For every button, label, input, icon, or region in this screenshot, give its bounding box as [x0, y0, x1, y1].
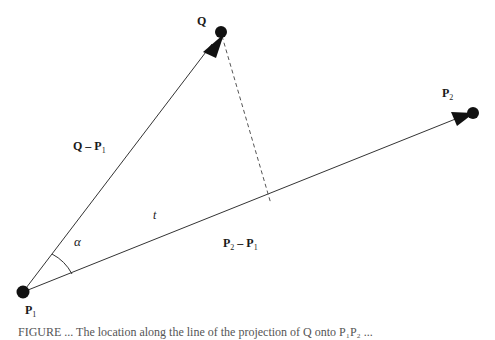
point-p1 [17, 286, 30, 299]
alpha-angle-arc [52, 254, 72, 274]
vector-q-minus-p1 [23, 44, 212, 292]
projection-dashed-line [222, 36, 271, 204]
point-p2 [467, 107, 479, 119]
label-p1-sub: 1 [32, 310, 36, 319]
label-q-minus-p1-main: Q – P [73, 139, 102, 153]
label-p2: P2 [442, 86, 453, 102]
label-alpha-text: α [74, 234, 81, 249]
label-p2-sub: 2 [449, 93, 453, 102]
label-t-text: t [153, 208, 156, 222]
label-alpha: α [74, 234, 81, 250]
label-p2-minus-p1: P2 – P1 [223, 236, 258, 252]
label-q-text: Q [197, 14, 206, 28]
label-q-minus-p1: Q – P1 [73, 139, 106, 155]
label-p2-minus-p1-b-sub: 1 [254, 243, 258, 252]
figure-caption: FIGURE ... The location along the line o… [18, 325, 373, 340]
label-q-minus-p1-sub: 1 [102, 146, 106, 155]
label-p2-minus-p1-mid: – P [234, 236, 253, 250]
point-q [215, 26, 227, 38]
label-p1: P1 [25, 303, 36, 319]
label-q: Q [197, 14, 206, 29]
label-t: t [153, 208, 156, 223]
